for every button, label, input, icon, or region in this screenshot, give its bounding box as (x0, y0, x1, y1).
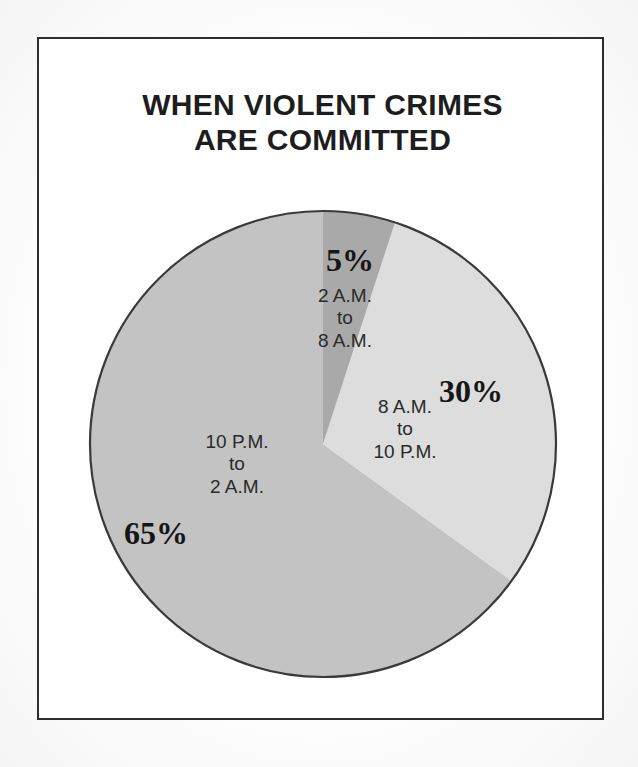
range-line-2: 8 A.M. (285, 330, 405, 352)
scanned-page: WHEN VIOLENT CRIMES ARE COMMITTED 5% 2 A… (0, 0, 638, 767)
pie-chart-svg (39, 39, 606, 722)
pie-label-range-2am-8am: 2 A.M. to 8 A.M. (285, 285, 405, 352)
range-line-2: 10 P.M. (345, 441, 465, 463)
range-line-1: 8 A.M. (345, 396, 465, 418)
range-line-1: 10 P.M. (177, 431, 297, 453)
chart-frame: WHEN VIOLENT CRIMES ARE COMMITTED 5% 2 A… (37, 37, 604, 720)
pie-label-range-8am-10pm: 8 A.M. to 10 P.M. (345, 396, 465, 463)
range-connector: to (177, 453, 297, 475)
pie-label-percent-65: 65% (124, 515, 188, 552)
pie-chart: 5% 2 A.M. to 8 A.M. 30% 8 A.M. to 10 P.M… (39, 39, 606, 722)
range-connector: to (345, 418, 465, 440)
pie-label-percent-5: 5% (326, 242, 374, 279)
range-line-1: 2 A.M. (285, 285, 405, 307)
range-line-2: 2 A.M. (177, 476, 297, 498)
pie-label-range-10pm-2am: 10 P.M. to 2 A.M. (177, 431, 297, 498)
range-connector: to (285, 307, 405, 329)
